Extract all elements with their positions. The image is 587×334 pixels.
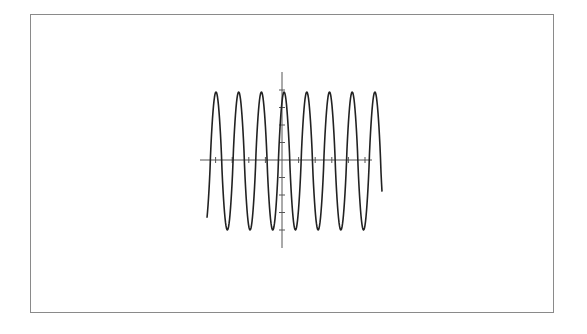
chart-plot <box>0 0 587 334</box>
waveform-line <box>207 92 382 230</box>
